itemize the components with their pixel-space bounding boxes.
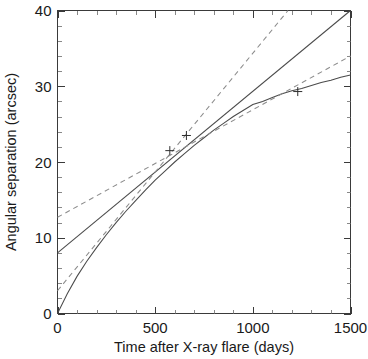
chart-figure: 050010001500010203040Time after X-ray fl… bbox=[0, 0, 368, 359]
x-axis-title: Time after X-ray flare (days) bbox=[114, 339, 294, 355]
y-tick-label: 30 bbox=[35, 78, 52, 95]
angular-separation-plot: 050010001500010203040Time after X-ray fl… bbox=[0, 0, 368, 359]
data-point-marker bbox=[182, 131, 191, 140]
y-tick-label: 0 bbox=[43, 305, 51, 322]
plot-axes bbox=[58, 11, 352, 315]
data-point-markers bbox=[165, 87, 302, 155]
y-axis-title: Angular separation (arcsec) bbox=[3, 73, 19, 251]
y-tick-label: 40 bbox=[35, 2, 52, 19]
x-tick-label: 1500 bbox=[334, 319, 367, 336]
series-constant-velocity-model bbox=[58, 11, 351, 253]
y-tick-label: 20 bbox=[35, 154, 52, 171]
x-tick-label: 500 bbox=[143, 319, 168, 336]
series-decelerating-expansion-model bbox=[58, 75, 351, 314]
y-tick-label: 10 bbox=[35, 229, 52, 246]
x-tick-label: 0 bbox=[53, 319, 61, 336]
plot-series bbox=[58, 11, 351, 314]
plot-frame bbox=[58, 11, 351, 314]
x-tick-label: 1000 bbox=[236, 319, 269, 336]
series-lower-bound-model bbox=[58, 56, 351, 217]
data-point-marker bbox=[165, 146, 174, 155]
